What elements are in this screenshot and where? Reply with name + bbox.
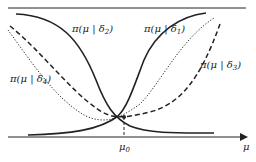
label-delta4: π(μ | δ4) <box>9 73 51 86</box>
curve-delta3 <box>10 24 220 117</box>
x-axis-label: μ <box>243 141 250 152</box>
label-delta3: π(μ | δ3) <box>199 59 241 72</box>
label-delta1: π(μ | δ1) <box>143 23 185 36</box>
diagram-canvas: π(μ | δ2) π(μ | δ1) π(μ | δ3) π(μ | δ4) … <box>0 0 256 162</box>
mu0-label: μ0 <box>119 141 131 154</box>
label-delta2: π(μ | δ2) <box>71 23 113 36</box>
x-axis-arrow-icon <box>240 133 248 141</box>
